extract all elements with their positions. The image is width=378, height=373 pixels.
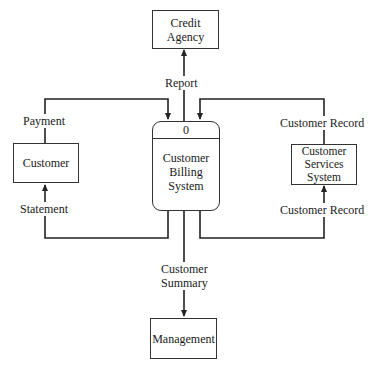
flow-label-report: Report <box>164 76 199 90</box>
flow-label-customer-record-bottom: Customer Record <box>279 203 365 217</box>
flow-label-customer-record-top: Customer Record <box>279 116 365 130</box>
flow-label-customer-summary: Customer Summary <box>160 262 209 290</box>
entity-management: Management <box>150 318 217 359</box>
process-name: Customer Billing System <box>153 139 219 193</box>
process-customer-billing-system: 0 Customer Billing System <box>152 121 220 211</box>
entity-credit-agency: Credit Agency <box>152 10 219 49</box>
flow-label-statement: Statement <box>19 202 69 216</box>
entity-customer: Customer <box>13 143 79 183</box>
process-id: 0 <box>153 122 219 139</box>
entity-customer-services-system: Customer Services System <box>291 144 357 185</box>
flow-label-payment: Payment <box>22 114 66 128</box>
